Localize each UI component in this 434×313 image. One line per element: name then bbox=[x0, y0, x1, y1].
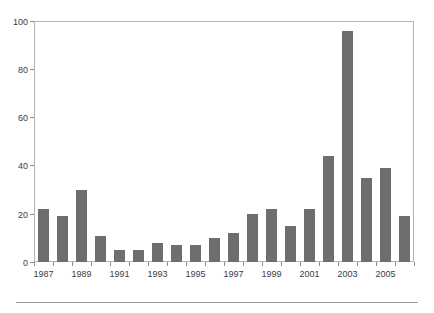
bar bbox=[209, 238, 221, 262]
bar bbox=[133, 250, 145, 262]
x-axis-tick-mark bbox=[91, 262, 92, 266]
bar bbox=[285, 226, 297, 262]
bar bbox=[380, 168, 392, 262]
y-axis-tick: 60 bbox=[18, 111, 34, 123]
x-axis-tick-mark bbox=[262, 262, 263, 266]
bar bbox=[323, 156, 335, 262]
x-axis-tick-mark bbox=[376, 262, 377, 266]
x-axis-tick-mark bbox=[72, 262, 73, 266]
x-axis-tick-mark bbox=[224, 262, 225, 266]
x-axis-tick-label: 2005 bbox=[375, 269, 395, 279]
bar bbox=[95, 236, 107, 263]
x-axis-tick-label: 1991 bbox=[109, 269, 129, 279]
x-axis-tick-mark bbox=[34, 262, 35, 266]
bar bbox=[57, 216, 69, 262]
x-axis-tick-mark bbox=[148, 262, 149, 266]
y-axis-tick: 100 bbox=[13, 15, 34, 27]
y-axis-tick-label: 100 bbox=[13, 16, 28, 28]
bar bbox=[152, 243, 164, 262]
y-axis-tick: 0 bbox=[23, 256, 34, 268]
x-axis-tick-label: 1993 bbox=[147, 269, 167, 279]
x-axis-tick-label: 2003 bbox=[337, 269, 357, 279]
bar bbox=[114, 250, 126, 262]
x-axis-tick-label: 1989 bbox=[71, 269, 91, 279]
y-axis-tick-label: 40 bbox=[18, 160, 28, 172]
y-axis-tick: 80 bbox=[18, 63, 34, 75]
y-axis-tick-label: 80 bbox=[18, 64, 28, 76]
bar bbox=[228, 233, 240, 262]
bar bbox=[190, 245, 202, 262]
y-axis-tick: 20 bbox=[18, 208, 34, 220]
x-axis: 1987198919911993199519971999200120032005 bbox=[34, 262, 414, 288]
x-axis-tick-mark bbox=[414, 262, 415, 266]
x-axis-tick-mark bbox=[243, 262, 244, 266]
bar-series bbox=[34, 21, 414, 262]
y-axis-tick: 40 bbox=[18, 160, 34, 172]
x-axis-tick-mark bbox=[395, 262, 396, 266]
bar-chart-figure: 020406080100 198719891991199319951997199… bbox=[0, 0, 434, 313]
x-axis-tick-mark bbox=[110, 262, 111, 266]
x-axis-tick-mark bbox=[53, 262, 54, 266]
x-axis-tick-mark bbox=[357, 262, 358, 266]
bar bbox=[76, 190, 88, 262]
y-axis-tick-label: 60 bbox=[18, 112, 28, 124]
y-axis: 020406080100 bbox=[0, 0, 34, 283]
bar bbox=[266, 209, 278, 262]
bar bbox=[247, 214, 259, 262]
bar bbox=[38, 209, 50, 262]
x-axis-tick-mark bbox=[129, 262, 130, 266]
bar bbox=[342, 31, 354, 262]
x-axis-tick-label: 1999 bbox=[261, 269, 281, 279]
bar bbox=[399, 216, 411, 262]
x-axis-tick-mark bbox=[167, 262, 168, 266]
x-axis-tick-label: 1997 bbox=[223, 269, 243, 279]
x-axis-tick-mark bbox=[281, 262, 282, 266]
x-axis-tick-mark bbox=[186, 262, 187, 266]
bar bbox=[304, 209, 316, 262]
bar bbox=[361, 178, 373, 262]
x-axis-tick-mark bbox=[319, 262, 320, 266]
y-axis-tick-label: 20 bbox=[18, 209, 28, 221]
bar bbox=[171, 245, 183, 262]
y-axis-tick-label: 0 bbox=[23, 257, 28, 269]
x-axis-tick-label: 1987 bbox=[33, 269, 53, 279]
footer-divider bbox=[16, 302, 418, 303]
x-axis-tick-mark bbox=[338, 262, 339, 266]
x-axis-tick-mark bbox=[300, 262, 301, 266]
x-axis-tick-label: 1995 bbox=[185, 269, 205, 279]
x-axis-tick-mark bbox=[205, 262, 206, 266]
x-axis-tick-label: 2001 bbox=[299, 269, 319, 279]
